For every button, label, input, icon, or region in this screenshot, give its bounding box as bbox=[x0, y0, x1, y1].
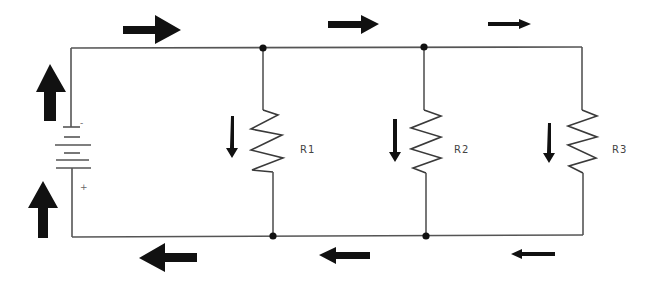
current-arrows-bottom bbox=[139, 243, 555, 272]
arrow-right-medium-icon bbox=[328, 15, 379, 34]
resistor-r3 bbox=[568, 110, 597, 173]
arrow-down-r1-icon bbox=[226, 116, 238, 158]
arrow-left-small-icon bbox=[511, 249, 555, 259]
resistor-r2 bbox=[411, 110, 441, 173]
arrow-up-lower-icon bbox=[28, 181, 58, 238]
arrow-right-large-icon bbox=[123, 15, 181, 44]
battery-negative-label: - bbox=[80, 118, 83, 128]
resistor-r2-label: R2 bbox=[454, 144, 469, 155]
arrow-down-r3-icon bbox=[543, 123, 555, 163]
current-arrows-top bbox=[123, 15, 531, 44]
arrow-left-large-icon bbox=[139, 243, 197, 272]
junction-bottom-2 bbox=[422, 232, 429, 239]
branch-r1: R1 bbox=[251, 44, 315, 239]
arrow-left-medium-icon bbox=[319, 247, 370, 264]
parallel-circuit-diagram: - + R1 R2 R3 bbox=[0, 0, 654, 288]
circuit-wires bbox=[71, 47, 583, 237]
resistor-r1-label: R1 bbox=[300, 144, 315, 155]
battery-positive-label: + bbox=[80, 182, 88, 192]
branch-r2: R2 bbox=[411, 43, 469, 239]
bottom-wire bbox=[72, 235, 583, 237]
junction-top-2 bbox=[420, 43, 427, 50]
current-arrows-battery bbox=[28, 64, 66, 238]
top-wire bbox=[71, 47, 582, 48]
junction-top-1 bbox=[259, 44, 266, 51]
arrow-right-small-icon bbox=[488, 19, 531, 29]
resistor-r1 bbox=[251, 110, 283, 172]
resistor-r3-label: R3 bbox=[612, 144, 627, 155]
arrow-up-upper-icon bbox=[36, 64, 66, 121]
battery: - + bbox=[55, 118, 91, 192]
arrow-down-r2-icon bbox=[389, 119, 401, 162]
junction-bottom-1 bbox=[269, 232, 276, 239]
branch-r3: R3 bbox=[568, 47, 627, 235]
